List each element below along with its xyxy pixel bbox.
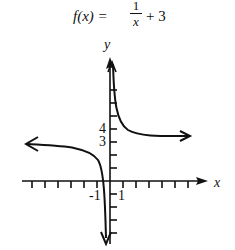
x-tick-label-1: 1 <box>118 188 125 203</box>
y-ticks <box>110 90 117 233</box>
curve-right-branch <box>108 62 190 141</box>
y-axis <box>106 57 117 244</box>
x-tick-label-neg1: -1 <box>89 188 101 203</box>
y-tick-label-3: 3 <box>99 134 106 149</box>
x-axis <box>22 177 208 188</box>
graph-plot: x y -1 1 4 3 <box>0 0 235 250</box>
x-axis-label: x <box>213 175 221 190</box>
y-axis-label: y <box>102 37 111 52</box>
